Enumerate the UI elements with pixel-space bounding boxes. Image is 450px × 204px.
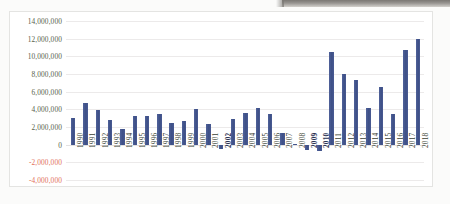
bar[interactable] bbox=[256, 108, 260, 145]
bar-group: 2017 bbox=[399, 12, 411, 186]
bar-group: 2004 bbox=[239, 12, 251, 186]
y-axis-tick-label: 4,000,000 bbox=[32, 105, 62, 114]
bar-group: 2000 bbox=[190, 12, 202, 186]
y-axis-tick-label: 6,000,000 bbox=[32, 87, 62, 96]
bar-group: 2005 bbox=[252, 12, 264, 186]
bar-group: 2016 bbox=[387, 12, 399, 186]
bar[interactable] bbox=[293, 144, 297, 145]
bar-group: 2010 bbox=[313, 12, 325, 186]
bar-group: 1999 bbox=[178, 12, 190, 186]
y-axis-tick-label: 2,000,000 bbox=[32, 123, 62, 132]
y-axis-tick-label: 10,000,000 bbox=[28, 52, 62, 61]
bars-area: 1990199119921993199419951996199719981999… bbox=[67, 12, 424, 186]
bar-group: 2001 bbox=[202, 12, 214, 186]
bar-group: 1990 bbox=[67, 12, 79, 186]
bar-group: 2013 bbox=[350, 12, 362, 186]
bar[interactable] bbox=[354, 80, 358, 145]
bar-group: 1991 bbox=[79, 12, 91, 186]
bar-group: 2012 bbox=[338, 12, 350, 186]
bar-group: 2002 bbox=[215, 12, 227, 186]
bar[interactable] bbox=[342, 74, 346, 144]
bar[interactable] bbox=[416, 39, 420, 145]
bar[interactable] bbox=[329, 52, 333, 145]
bar-group: 1995 bbox=[129, 12, 141, 186]
y-axis-tick-label: -2,000,000 bbox=[29, 158, 62, 167]
bar[interactable] bbox=[317, 145, 321, 151]
bar[interactable] bbox=[157, 114, 161, 145]
y-axis-tick-label: 12,000,000 bbox=[28, 34, 62, 43]
y-axis-tick-label: 8,000,000 bbox=[32, 70, 62, 79]
bar[interactable] bbox=[391, 114, 395, 144]
bar-group: 2014 bbox=[362, 12, 374, 186]
y-axis-tick-label: 14,000,000 bbox=[28, 17, 62, 26]
bar-group: 1996 bbox=[141, 12, 153, 186]
y-axis-labels: 14,000,00012,000,00010,000,0008,000,0006… bbox=[10, 12, 66, 186]
bar[interactable] bbox=[83, 103, 87, 145]
bar[interactable] bbox=[133, 116, 137, 144]
bar-group: 1998 bbox=[165, 12, 177, 186]
bar[interactable] bbox=[145, 116, 149, 145]
bar[interactable] bbox=[280, 133, 284, 145]
bar[interactable] bbox=[108, 120, 112, 145]
bar[interactable] bbox=[71, 118, 75, 145]
scan-artifact-strip bbox=[282, 0, 450, 7]
bar-group: 1994 bbox=[116, 12, 128, 186]
bar[interactable] bbox=[231, 119, 235, 145]
y-axis-tick-label: -4,000,000 bbox=[29, 176, 62, 185]
bar-group: 2003 bbox=[227, 12, 239, 186]
bar-group: 2007 bbox=[276, 12, 288, 186]
bar-group: 2018 bbox=[412, 12, 424, 186]
bar[interactable] bbox=[182, 121, 186, 145]
bar[interactable] bbox=[194, 109, 198, 145]
bar-group: 1993 bbox=[104, 12, 116, 186]
bar-group: 2008 bbox=[289, 12, 301, 186]
plot-area: 14,000,00012,000,00010,000,0008,000,0006… bbox=[10, 12, 432, 186]
bar-group: 1992 bbox=[92, 12, 104, 186]
bar[interactable] bbox=[219, 145, 223, 150]
bar-group: 2011 bbox=[326, 12, 338, 186]
y-axis-tick-label: 0 bbox=[58, 140, 62, 149]
bar-group: 2009 bbox=[301, 12, 313, 186]
bar-group: 2006 bbox=[264, 12, 276, 186]
bar[interactable] bbox=[96, 110, 100, 145]
bar[interactable] bbox=[379, 87, 383, 145]
bar[interactable] bbox=[305, 145, 309, 150]
bar[interactable] bbox=[120, 129, 124, 145]
x-axis-tick-label: 2018 bbox=[421, 132, 430, 147]
bar-group: 1997 bbox=[153, 12, 165, 186]
bar-group: 2015 bbox=[375, 12, 387, 186]
bar[interactable] bbox=[403, 50, 407, 145]
bar[interactable] bbox=[268, 114, 272, 145]
chart-container: 14,000,00012,000,00010,000,0008,000,0006… bbox=[9, 11, 433, 187]
